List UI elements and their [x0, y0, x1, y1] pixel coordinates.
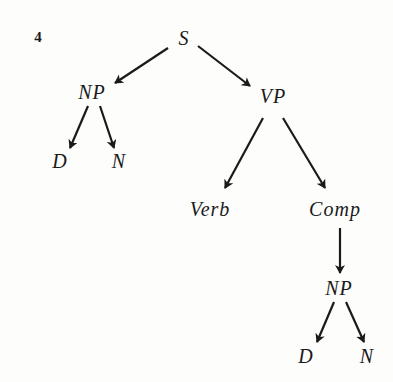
node-np-object: NP [325, 278, 353, 298]
node-d-object: D [298, 346, 313, 366]
node-vp: VP [260, 86, 286, 106]
node-comp: Comp [309, 199, 361, 219]
edge-s-to-vp-arrow-icon [198, 46, 250, 86]
edge-vp-to-comp-arrow-icon [283, 118, 325, 188]
node-np-subject: NP [78, 82, 106, 102]
syntax-tree-figure: 4 S NP VP D N Verb Comp NP D N [0, 0, 393, 382]
node-s: S [179, 28, 190, 48]
node-n-object: N [360, 346, 374, 366]
edge-np1-to-n1-arrow-icon [100, 106, 114, 148]
node-n-subject: N [112, 151, 126, 171]
edge-vp-to-verb-arrow-icon [225, 118, 263, 188]
edge-s-to-np1-arrow-icon [115, 48, 168, 83]
node-verb: Verb [190, 199, 231, 219]
edge-np2-to-d2-arrow-icon [317, 302, 334, 342]
edge-np2-to-n2-arrow-icon [346, 302, 364, 342]
node-d-subject: D [52, 151, 67, 171]
tree-edges [0, 0, 393, 382]
edge-np1-to-d1-arrow-icon [70, 106, 88, 148]
figure-number-label: 4 [34, 30, 42, 45]
